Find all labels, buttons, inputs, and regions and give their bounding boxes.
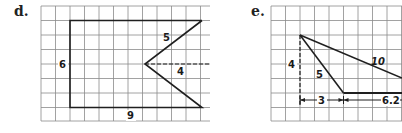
dim-d-notch: 4 <box>177 66 184 77</box>
figures-canvas: 6 9 5 4 4 5 10 3 6.2 <box>0 0 402 133</box>
dim-e-base: 6.2 <box>382 95 400 106</box>
dim-d-slant: 5 <box>163 32 170 43</box>
dim-e-offset: 3 <box>318 95 325 106</box>
dim-e-short-side: 5 <box>316 69 323 80</box>
dim-e-long-side: 10 <box>371 56 385 67</box>
dim-e-height: 4 <box>288 59 295 70</box>
dim-d-height: 6 <box>59 59 66 70</box>
dim-d-width: 9 <box>127 110 134 121</box>
